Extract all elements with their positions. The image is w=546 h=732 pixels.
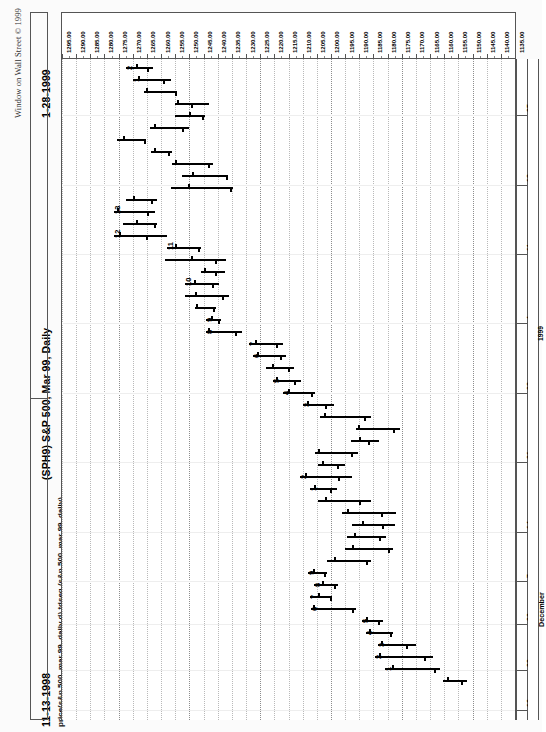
td-sequential-count: 11 xyxy=(166,242,175,250)
price-minor-tick xyxy=(239,56,240,58)
price-tick-mark xyxy=(274,54,275,58)
price-minor-tick xyxy=(480,56,481,58)
price-tick-label: 1265.00 xyxy=(150,31,156,53)
price-minor-tick xyxy=(296,56,297,58)
price-tick-mark xyxy=(317,54,318,58)
price-tick-mark xyxy=(246,54,247,58)
ohlc-close-tick xyxy=(215,260,217,264)
price-minor-tick xyxy=(154,56,155,58)
price-tick-label: 1240.00 xyxy=(221,31,227,53)
td-sequential-count: 6 xyxy=(310,607,319,611)
price-gridline xyxy=(232,59,234,720)
ohlc-close-tick xyxy=(364,417,366,421)
price-minor-tick xyxy=(366,56,367,58)
td-sequential-count: 4 xyxy=(365,631,374,635)
month-label: December xyxy=(537,593,546,628)
price-tick-label: 1210.00 xyxy=(306,31,312,53)
price-tick-label: 1250.00 xyxy=(193,31,199,53)
price-minor-tick xyxy=(168,56,169,58)
td-sequential-count: 5 xyxy=(272,378,281,382)
price-gridline xyxy=(119,59,121,720)
td-sequential-count: 2 xyxy=(374,655,383,659)
price-minor-tick xyxy=(465,56,466,58)
ohlc-open-tick xyxy=(195,292,197,296)
ohlc-close-tick xyxy=(191,104,193,108)
price-gridline xyxy=(416,59,418,720)
price-tick-mark xyxy=(161,54,162,58)
price-tick-label: 1235.00 xyxy=(235,31,241,53)
date-gridline xyxy=(62,710,515,711)
price-tick-label: 1225.00 xyxy=(264,31,270,53)
ohlc-close-tick xyxy=(182,128,184,132)
price-tick-mark xyxy=(303,54,304,58)
price-tick-mark xyxy=(119,54,120,58)
price-minor-tick xyxy=(352,56,353,58)
ohlc-close-tick xyxy=(154,224,156,228)
price-gridline xyxy=(246,59,248,720)
price-tick-mark xyxy=(416,54,417,58)
date-gridline xyxy=(62,185,515,186)
price-minor-tick xyxy=(324,56,325,58)
price-tick-mark xyxy=(430,54,431,58)
price-tick-label: 1275.00 xyxy=(122,31,128,53)
ohlc-open-tick xyxy=(154,124,156,128)
price-tick-label: 1200.00 xyxy=(334,31,340,53)
ohlc-close-tick xyxy=(218,320,220,324)
ohlc-open-tick xyxy=(194,280,196,284)
ohlc-close-tick xyxy=(226,176,228,180)
price-tick-label: 1150.00 xyxy=(476,32,482,53)
price-gridline xyxy=(430,59,432,720)
price-tick-label: 1135.00 xyxy=(519,32,525,53)
price-gridline xyxy=(62,59,64,720)
ohlc-open-tick xyxy=(192,172,194,176)
price-tick-label: 1220.00 xyxy=(278,31,284,53)
ohlc-close-tick xyxy=(288,368,290,372)
header-divider-top xyxy=(30,12,48,13)
td-sequential-count: 3 xyxy=(302,402,311,406)
ohlc-range xyxy=(123,223,157,225)
price-tick-label: 1245.00 xyxy=(207,31,213,53)
td-sequential-count: 10 xyxy=(184,278,193,286)
price-gridline xyxy=(458,59,460,720)
price-minor-tick xyxy=(267,56,268,58)
ohlc-close-tick xyxy=(378,621,380,625)
header-divider-left xyxy=(30,12,31,720)
ohlc-close-tick xyxy=(324,573,326,577)
ohlc-open-tick xyxy=(175,244,177,248)
price-tick-label: 1205.00 xyxy=(320,31,326,53)
price-tick-label: 1175.00 xyxy=(405,32,411,53)
price-tick-mark xyxy=(444,54,445,58)
price-tick-mark xyxy=(515,54,516,58)
price-gridline xyxy=(388,59,390,720)
price-tick-label: 1290.00 xyxy=(80,31,86,53)
ohlc-range xyxy=(171,187,233,189)
ohlc-open-tick xyxy=(196,304,198,308)
price-tick-mark xyxy=(90,54,91,58)
ohlc-range xyxy=(144,91,177,93)
date-axis: 25181142821147302316 xyxy=(516,59,528,720)
price-minor-tick xyxy=(281,56,282,58)
ohlc-close-tick xyxy=(198,248,200,252)
ohlc-close-tick xyxy=(202,116,204,120)
date-gridline xyxy=(62,670,515,671)
price-minor-tick xyxy=(126,56,127,58)
price-tick-label: 1280.00 xyxy=(108,31,114,53)
td-sequential-count: 2 xyxy=(299,474,308,478)
ohlc-range xyxy=(117,139,145,141)
td-sequential-count: 7 xyxy=(248,342,257,346)
price-tick-mark xyxy=(402,54,403,58)
price-gridline xyxy=(133,59,135,720)
ohlc-open-tick xyxy=(362,521,364,525)
ohlc-open-tick xyxy=(322,461,324,465)
price-tick-mark xyxy=(76,54,77,58)
price-tick-mark xyxy=(218,54,219,58)
price-minor-tick xyxy=(97,56,98,58)
ohlc-open-tick xyxy=(146,88,148,92)
ohlc-open-tick xyxy=(133,196,135,200)
ohlc-range xyxy=(114,235,166,237)
td-sequential-count: 1 xyxy=(384,667,393,671)
ohlc-close-tick xyxy=(330,489,332,493)
td-sequential-count: 7 xyxy=(309,595,318,599)
ohlc-open-tick xyxy=(272,364,274,368)
price-gridline xyxy=(331,59,333,720)
